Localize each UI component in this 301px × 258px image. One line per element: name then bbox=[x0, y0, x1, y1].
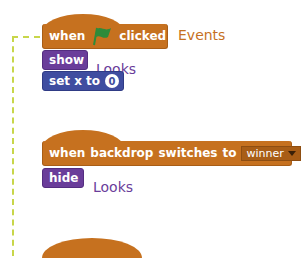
set-x-to-block[interactable]: set x to 0 bbox=[42, 71, 124, 91]
category-label-looks: Looks bbox=[93, 179, 133, 195]
block-text-clicked: clicked bbox=[119, 29, 166, 43]
connector-line-vertical bbox=[12, 36, 14, 256]
green-flag-icon bbox=[91, 26, 113, 46]
backdrop-dropdown[interactable]: winner bbox=[241, 146, 300, 161]
block-text-when: when bbox=[49, 146, 85, 160]
block-text-switches: switches bbox=[158, 146, 217, 160]
dropdown-caret-icon bbox=[288, 151, 296, 156]
x-value-input[interactable]: 0 bbox=[105, 74, 119, 88]
block-text-to: to bbox=[222, 146, 236, 160]
block-text-set-x-to: set x to bbox=[49, 74, 100, 88]
connector-line-horizontal bbox=[12, 36, 40, 38]
block-text-show: show bbox=[49, 53, 84, 67]
dropdown-value: winner bbox=[246, 147, 283, 160]
when-backdrop-switches-block[interactable]: when backdrop switches to winner bbox=[42, 141, 292, 166]
block-text-when: when bbox=[49, 29, 85, 43]
when-flag-clicked-block[interactable]: when clicked bbox=[42, 24, 168, 49]
block-text-hide: hide bbox=[49, 171, 78, 185]
category-label-events: Events bbox=[178, 27, 225, 43]
block-text-backdrop: backdrop bbox=[90, 146, 153, 160]
hide-block[interactable]: hide bbox=[42, 168, 84, 188]
partial-hat-block[interactable] bbox=[42, 238, 142, 258]
show-block[interactable]: show bbox=[42, 50, 88, 70]
